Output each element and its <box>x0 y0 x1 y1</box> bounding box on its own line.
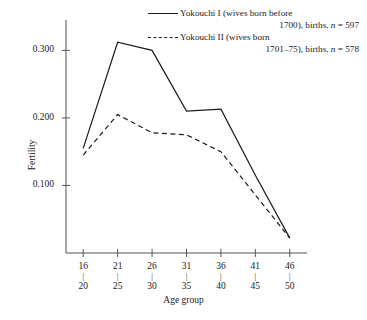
x-tick-label-start: 36 <box>216 261 226 271</box>
legend-entry-yokouchi-1: Yokouchi I (wives born before 1700), bir… <box>180 8 365 31</box>
chart-legend: Yokouchi I (wives born before 1700), bir… <box>180 8 365 56</box>
series-line-yokouchi-ii <box>83 115 290 239</box>
legend-n-value: = 597 <box>335 20 359 30</box>
legend-entry-line2: 1700), births, n = 597 <box>180 20 365 32</box>
x-tick-label-start: 41 <box>251 261 261 271</box>
y-tick-label: 0.100 <box>14 179 54 189</box>
legend-entry-line2: 1701–75), births, n = 578 <box>180 44 365 56</box>
x-tick-label-group: 46|50 <box>270 261 310 291</box>
x-axis-title: Age group <box>0 295 367 305</box>
x-tick-label-start: 16 <box>78 261 88 271</box>
y-tick-label: 0.200 <box>14 112 54 122</box>
legend-entry-yokouchi-2: Yokouchi II (wives born 1701–75), births… <box>180 32 365 55</box>
legend-births-prefix: 1701–75), births, <box>266 44 331 54</box>
x-tick-label-end: 45 <box>251 281 261 291</box>
fertility-line-chart: Fertility 0.3000.2000.100 16|2021|2526|3… <box>0 0 367 320</box>
x-tick-label-end: 30 <box>147 281 157 291</box>
x-tick-label-start: 31 <box>182 261 192 271</box>
x-tick-label-end: 35 <box>182 281 192 291</box>
x-tick-label-end: 50 <box>285 281 295 291</box>
legend-line-sample-solid <box>148 13 178 14</box>
series-line-yokouchi-i <box>83 42 290 238</box>
x-tick-range-separator: | <box>270 272 310 281</box>
y-tick-label: 0.300 <box>14 44 54 54</box>
x-tick-label-end: 20 <box>78 281 88 291</box>
legend-births-prefix: 1700), births, <box>279 20 331 30</box>
legend-n-value: = 578 <box>335 44 359 54</box>
x-tick-label-end: 25 <box>113 281 123 291</box>
data-series-lines <box>83 42 290 238</box>
x-tick-label-start: 46 <box>285 261 295 271</box>
x-tick-label-end: 40 <box>216 281 226 291</box>
legend-line-sample-dashed <box>148 37 178 38</box>
x-tick-label-start: 26 <box>147 261 157 271</box>
x-tick-label-start: 21 <box>113 261 123 271</box>
legend-entry-line1: Yokouchi I (wives born before <box>180 8 365 20</box>
legend-entry-line1: Yokouchi II (wives born <box>180 32 365 44</box>
